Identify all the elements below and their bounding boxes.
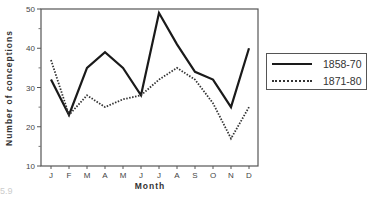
svg-text:A: A <box>102 171 108 180</box>
svg-text:F: F <box>67 171 72 180</box>
svg-text:J: J <box>157 171 161 180</box>
y-axis-label: Number of conceptions <box>4 30 14 146</box>
figure-caption-fragment: 5.9 <box>0 186 13 196</box>
series-line-1858-70 <box>51 13 249 115</box>
series-line-1871-80 <box>51 60 249 139</box>
svg-text:10: 10 <box>26 162 35 171</box>
svg-text:20: 20 <box>26 123 35 132</box>
dotted-line-swatch-icon <box>272 80 312 82</box>
legend-item-1871-80: 1871-80 <box>267 74 366 88</box>
data-lines <box>51 13 249 139</box>
svg-text:J: J <box>139 171 143 180</box>
svg-text:40: 40 <box>26 44 35 53</box>
solid-line-swatch-icon <box>272 63 312 65</box>
svg-text:S: S <box>192 171 197 180</box>
legend-item-1858-70: 1858-70 <box>267 57 366 71</box>
legend-label: 1858-70 <box>323 57 362 71</box>
x-axis: JFMAMJJASOND <box>49 166 252 180</box>
x-axis-label: Month <box>135 181 166 191</box>
svg-text:O: O <box>210 171 216 180</box>
svg-text:J: J <box>49 171 53 180</box>
svg-text:D: D <box>246 171 252 180</box>
line-chart: 1020304050 JFMAMJJASOND Number of concep… <box>0 0 370 200</box>
svg-text:A: A <box>174 171 180 180</box>
plot-frame <box>41 9 258 166</box>
y-axis: 1020304050 <box>26 5 41 171</box>
svg-text:M: M <box>84 171 91 180</box>
legend: 1858-70 1871-80 <box>266 53 367 90</box>
svg-text:30: 30 <box>26 84 35 93</box>
svg-text:50: 50 <box>26 5 35 14</box>
legend-label: 1871-80 <box>323 74 362 88</box>
svg-text:M: M <box>120 171 127 180</box>
svg-text:N: N <box>228 171 234 180</box>
